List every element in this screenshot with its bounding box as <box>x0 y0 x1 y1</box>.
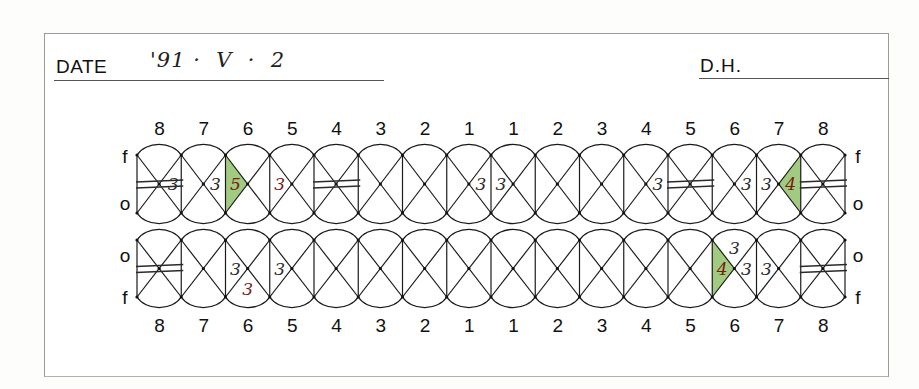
tooth-number: 7 <box>774 315 785 336</box>
missing-strike <box>667 186 714 188</box>
pocket-depth-mark: 3 <box>168 174 179 194</box>
side-label: o <box>853 193 864 214</box>
upper-tooth-4[interactable] <box>312 144 358 223</box>
side-label: o <box>120 193 131 214</box>
pocket-depth-mark: 3 <box>210 174 221 194</box>
missing-strike <box>136 271 183 273</box>
tooth-number: 1 <box>464 315 475 336</box>
tooth-number: 1 <box>508 118 519 139</box>
lower-tooth-10[interactable] <box>578 229 624 307</box>
tooth-number: 7 <box>774 118 785 139</box>
pocket-depth-mark: 4 <box>784 174 796 194</box>
pocket-depth-mark: 3 <box>729 238 740 258</box>
tooth-number: 4 <box>641 315 652 336</box>
missing-strike <box>800 180 847 182</box>
missing-strike <box>800 186 847 188</box>
side-label: f <box>122 146 128 167</box>
pocket-depth-mark: 3 <box>761 174 772 194</box>
upper-tooth-6[interactable] <box>401 144 447 223</box>
pocket-depth-mark: 3 <box>653 174 664 194</box>
tooth-number: 2 <box>553 315 564 336</box>
tooth-number: 5 <box>685 118 696 139</box>
tooth-number: 3 <box>376 118 387 139</box>
lower-tooth-12[interactable] <box>666 229 712 307</box>
pocket-depth-mark: 3 <box>496 174 507 194</box>
tooth-number: 8 <box>154 118 165 139</box>
tooth-number: 2 <box>553 118 564 139</box>
lower-tooth-7[interactable] <box>445 229 491 307</box>
pocket-depth-mark: 3 <box>242 279 253 299</box>
tooth-number: 5 <box>685 315 696 336</box>
tooth-number: 3 <box>376 315 387 336</box>
tooth-number: 4 <box>331 118 342 139</box>
tooth-number: 8 <box>818 315 829 336</box>
missing-strike <box>136 265 183 267</box>
tooth-number: 6 <box>243 118 254 139</box>
pocket-depth-mark: 3 <box>476 174 487 194</box>
pocket-depth-mark: 3 <box>761 259 772 279</box>
pocket-depth-mark: 5 <box>230 174 241 194</box>
tooth-number: 1 <box>464 118 475 139</box>
pocket-depth-mark: 3 <box>274 259 285 279</box>
upper-tooth-12[interactable] <box>666 144 712 223</box>
tooth-number: 8 <box>154 315 165 336</box>
tooth-number: 2 <box>420 118 431 139</box>
pocket-depth-mark: 3 <box>741 174 752 194</box>
tooth-number: 3 <box>597 118 608 139</box>
side-label: o <box>853 245 864 266</box>
tooth-number: 7 <box>199 315 210 336</box>
tooth-number: 8 <box>818 118 829 139</box>
tooth-number: 6 <box>730 118 741 139</box>
tooth-number: 3 <box>597 315 608 336</box>
pocket-depth-mark: 4 <box>716 259 728 279</box>
side-label: f <box>855 146 861 167</box>
lower-tooth-6[interactable] <box>401 229 447 307</box>
upper-tooth-5[interactable] <box>357 144 403 223</box>
lower-tooth-0[interactable] <box>135 229 181 307</box>
tooth-number: 6 <box>243 315 254 336</box>
lower-tooth-5[interactable] <box>357 229 403 307</box>
tooth-number: 5 <box>287 315 298 336</box>
tooth-number: 5 <box>287 118 298 139</box>
side-label: f <box>122 287 128 308</box>
lower-tooth-1[interactable] <box>180 229 226 307</box>
missing-strike <box>667 180 714 182</box>
side-label: o <box>120 245 131 266</box>
missing-strike <box>313 186 360 188</box>
missing-strike <box>800 271 847 273</box>
pocket-depth-mark: 3 <box>230 259 241 279</box>
tooth-number: 6 <box>730 315 741 336</box>
lower-tooth-11[interactable] <box>622 229 668 307</box>
tooth-number: 7 <box>199 118 210 139</box>
dental-chart: 8765432112345678fofo3353333334 876543211… <box>0 0 919 389</box>
lower-tooth-9[interactable] <box>534 229 580 307</box>
pocket-depth-mark: 3 <box>741 259 752 279</box>
side-label: f <box>855 287 861 308</box>
lower-tooth-15[interactable] <box>799 229 846 307</box>
lower-tooth-4[interactable] <box>312 229 358 307</box>
tooth-number: 4 <box>331 315 342 336</box>
upper-tooth-10[interactable] <box>578 144 624 223</box>
missing-strike <box>800 265 847 267</box>
tooth-number: 4 <box>641 118 652 139</box>
tooth-number: 1 <box>508 315 519 336</box>
tooth-number: 2 <box>420 315 431 336</box>
upper-tooth-9[interactable] <box>534 144 580 223</box>
lower-arch: 8765432112345678ofof3333433 <box>120 229 864 336</box>
pocket-depth-mark: 3 <box>274 174 285 194</box>
upper-tooth-15[interactable] <box>799 144 846 223</box>
lower-tooth-8[interactable] <box>489 229 535 307</box>
upper-arch: 8765432112345678fofo3353333334 <box>120 118 864 224</box>
missing-strike <box>313 180 360 182</box>
